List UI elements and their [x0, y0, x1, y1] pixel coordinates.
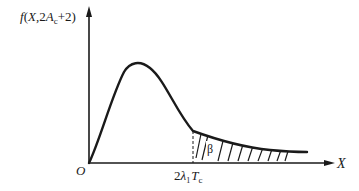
origin-label: O — [76, 163, 86, 178]
y-axis — [86, 6, 92, 164]
y-axis-label: f(X,2Ac+2) — [20, 9, 76, 26]
x-axis-arrow-icon — [324, 160, 335, 166]
threshold-label: 2λ1Tc — [174, 168, 202, 185]
pdf-diagram: f(X,2Ac+2) X O 2λ1Tc β — [0, 0, 359, 191]
beta-label: β — [207, 142, 213, 156]
x-axis-label: X — [336, 156, 346, 171]
x-axis — [88, 160, 335, 166]
y-axis-arrow-icon — [86, 6, 92, 17]
